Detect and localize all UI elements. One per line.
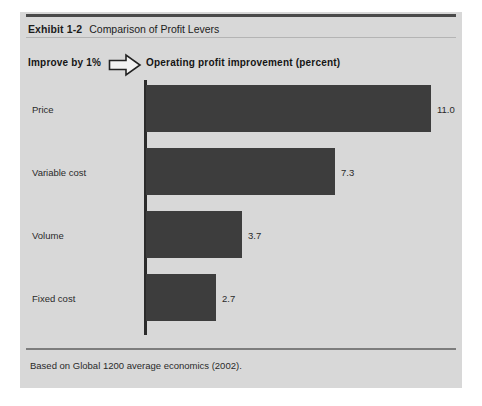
category-label: Price (32, 103, 54, 114)
bar-volume (146, 211, 242, 258)
exhibit-caption: Comparison of Profit Levers (89, 23, 219, 35)
title-top-rule (26, 14, 456, 17)
footer-source-note: Based on Global 1200 average economics (… (30, 360, 242, 371)
exhibit-number: Exhibit 1-2 (28, 23, 82, 35)
exhibit-title: Exhibit 1-2Comparison of Profit Levers (28, 19, 448, 35)
bar-price (146, 85, 431, 132)
bar-row: Fixed cost 2.7 (20, 274, 462, 321)
improve-by-label: Improve by 1% (28, 57, 101, 68)
bar-value-label: 2.7 (222, 292, 235, 303)
chart-header-row: Improve by 1% Operating profit improveme… (20, 52, 462, 78)
category-label: Volume (32, 229, 64, 240)
bar-value-label: 11.0 (437, 103, 455, 114)
category-label: Variable cost (32, 166, 86, 177)
plot-area: Price 11.0 Variable cost 7.3 Volume 3.7 … (20, 80, 462, 338)
bar-value-label: 3.7 (248, 229, 261, 240)
axis-title: Operating profit improvement (percent) (146, 57, 340, 68)
footer-rule (26, 348, 456, 350)
bar-variable-cost (146, 148, 335, 195)
bar-value-label: 7.3 (341, 166, 354, 177)
exhibit-panel: Exhibit 1-2Comparison of Profit Levers I… (20, 12, 462, 388)
right-arrow-icon (108, 53, 142, 77)
category-label: Fixed cost (32, 292, 75, 303)
bar-row: Variable cost 7.3 (20, 148, 462, 195)
title-bottom-rule (26, 37, 456, 38)
bar-row: Price 11.0 (20, 85, 462, 132)
bar-fixed-cost (146, 274, 216, 321)
bar-row: Volume 3.7 (20, 211, 462, 258)
